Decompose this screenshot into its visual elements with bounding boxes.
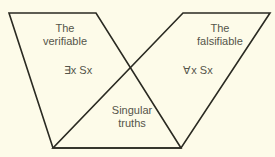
verifiable-formula: ∃x Sx (48, 64, 108, 77)
falsifiable-title: The falsifiable (182, 22, 258, 48)
verifiable-title: The verifiable (30, 22, 100, 48)
falsifiable-formula: ∀x Sx (168, 64, 228, 77)
singular-truths-label: Singular truths (102, 104, 162, 130)
